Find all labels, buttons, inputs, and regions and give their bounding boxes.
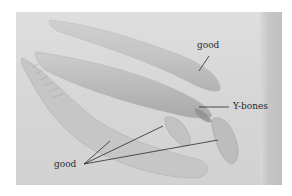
fillet-piece-right <box>212 118 238 164</box>
label-good-top: good <box>197 40 219 50</box>
label-ybones: Y-bones <box>233 101 268 111</box>
fillet-illustration <box>0 0 292 196</box>
fillet-piece-center <box>165 117 190 146</box>
label-good-bottom: good <box>54 159 76 169</box>
